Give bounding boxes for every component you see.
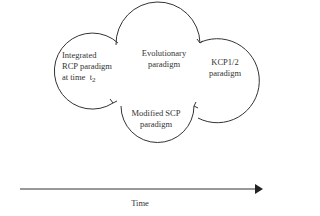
label-modified-scp: Modified SCP paradigm <box>126 108 186 130</box>
label-line: KCP1/2 <box>205 57 245 68</box>
arrowhead-icon <box>255 184 263 194</box>
label-line: Modified SCP <box>126 108 186 119</box>
label-kcp: KCP1/2 paradigm <box>205 57 245 79</box>
label-line: paradigm <box>136 59 192 70</box>
label-integrated: Integrated RCP paradigm at time t2 <box>62 50 112 86</box>
label-line: Integrated <box>62 50 112 61</box>
label-evolutionary: Evolutionary paradigm <box>136 48 192 70</box>
label-line: Evolutionary <box>136 48 192 59</box>
label-line: RCP paradigm <box>62 61 112 72</box>
label-line: paradigm <box>205 68 245 79</box>
label-line: paradigm <box>126 119 186 130</box>
circle-evolutionary <box>116 2 200 45</box>
time-axis-label: Time <box>120 198 160 209</box>
label-line: at time t2 <box>62 72 112 86</box>
circle-kcp <box>198 39 259 123</box>
